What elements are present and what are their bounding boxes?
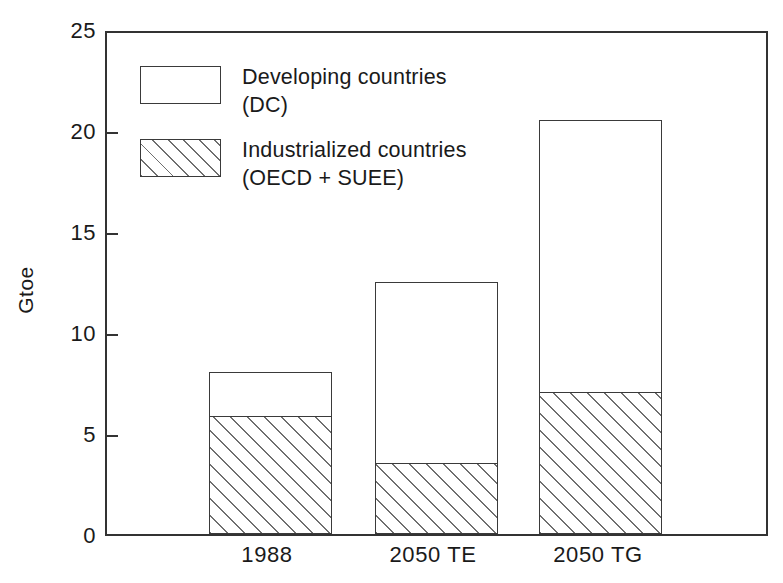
y-tick-mark-20	[107, 132, 118, 134]
bar-2050-te-segment-industrialized	[375, 463, 498, 534]
y-tick-label-15: 15	[52, 222, 96, 244]
legend-industrialized-line2: (OECD + SUEE)	[242, 165, 467, 193]
chart-legend: Developing countries (DC) Industrialized…	[140, 64, 560, 210]
y-axis-title: Gtoe	[14, 240, 38, 340]
legend-entry-developing-text: Developing countries (DC)	[242, 64, 447, 119]
legend-developing-line1: Developing countries	[242, 65, 447, 89]
legend-developing-line2: (DC)	[242, 92, 447, 120]
y-tick-mark-10	[107, 334, 118, 336]
x-tick-label-1988: 1988	[177, 544, 357, 566]
x-tick-label-2050-te: 2050 TE	[343, 544, 523, 566]
y-tick-mark-15	[107, 233, 118, 235]
y-tick-label-10: 10	[52, 323, 96, 345]
legend-entry-industrialized-text: Industrialized countries (OECD + SUEE)	[242, 137, 467, 192]
y-tick-label-0: 0	[52, 525, 96, 547]
stacked-bar-chart: Gtoe 25 20 15 10 5 0	[0, 0, 783, 583]
bar-2050-te-segment-developing	[375, 282, 498, 464]
bar-2050-tg-segment-industrialized	[539, 392, 662, 534]
y-tick-mark-5	[107, 435, 118, 437]
y-tick-label-25: 25	[52, 20, 96, 42]
y-tick-label-20: 20	[52, 121, 96, 143]
plot-area: Developing countries (DC) Industrialized…	[105, 31, 768, 536]
legend-entry-industrialized: Industrialized countries (OECD + SUEE)	[140, 137, 560, 192]
y-tick-label-5: 5	[52, 424, 96, 446]
bar-1988-segment-developing	[209, 372, 332, 417]
bar-1988-segment-industrialized	[209, 416, 332, 534]
legend-entry-developing: Developing countries (DC)	[140, 64, 560, 119]
bar-2050-te	[375, 282, 498, 534]
bar-1988	[209, 372, 332, 534]
legend-industrialized-line1: Industrialized countries	[242, 138, 467, 162]
hatched-box-icon	[140, 139, 221, 177]
x-tick-label-2050-tg: 2050 TG	[508, 544, 688, 566]
y-axis-tick-labels: 25 20 15 10 5 0	[48, 0, 96, 583]
white-box-icon	[140, 66, 221, 104]
